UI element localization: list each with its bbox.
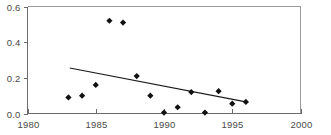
data-point-marker — [243, 99, 249, 105]
x-tick-label: 1990 — [154, 119, 176, 130]
data-point-marker — [134, 73, 140, 79]
data-point-marker — [79, 93, 85, 99]
data-point-marker — [188, 89, 194, 95]
y-tick-label: 0.4 — [7, 37, 21, 48]
y-axis-ticks: 0.00.20.40.6 — [7, 2, 28, 120]
x-tick-label: 1995 — [222, 119, 244, 130]
data-point-marker — [120, 19, 126, 25]
y-tick-label: 0.6 — [7, 2, 21, 13]
x-tick-label: 2000 — [291, 119, 313, 130]
scatter-chart: 0.00.20.40.6 19801985199019952000 — [0, 0, 331, 135]
data-point-marker — [175, 104, 181, 110]
data-point-marker — [216, 88, 222, 94]
data-point-marker — [147, 93, 153, 99]
data-point-marker — [161, 110, 167, 116]
data-points-group — [65, 18, 249, 116]
chart-container: 0.00.20.40.6 19801985199019952000 — [0, 0, 331, 135]
data-point-marker — [65, 94, 71, 100]
x-tick-label: 1985 — [86, 119, 108, 130]
y-tick-label: 0.2 — [7, 73, 21, 84]
data-point-marker — [202, 110, 208, 116]
data-point-marker — [229, 101, 235, 107]
data-point-marker — [93, 82, 99, 88]
data-point-marker — [106, 18, 112, 24]
x-tick-label: 1980 — [18, 119, 40, 130]
